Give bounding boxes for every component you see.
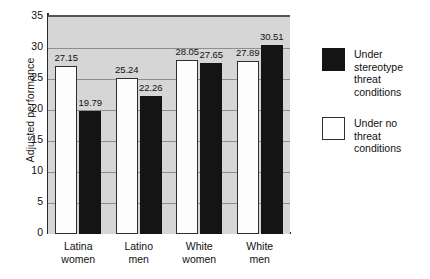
bar (176, 60, 198, 234)
legend-label-line: threat conditions (354, 73, 430, 98)
bar-value-label: 30.51 (260, 31, 283, 42)
x-axis-category-label-line: women (61, 253, 95, 266)
x-axis-category-label-line: Latina (61, 240, 95, 253)
x-axis-category-label-line: men (246, 253, 273, 266)
y-axis-tick-labels: 05101520253035 (19, 0, 43, 279)
bar (200, 63, 222, 234)
bar-chart-figure: Adjusted performance 05101520253035 Lati… (0, 0, 430, 279)
legend-item: Under stereotypethreat conditions (322, 48, 430, 98)
bar (116, 78, 138, 234)
x-axis-category-label: Latinawomen (61, 240, 95, 266)
x-axis-category-label-line: women (182, 253, 216, 266)
x-axis-category-label: Whitemen (246, 240, 273, 266)
legend-swatch (322, 48, 345, 71)
y-axis-tick-label: 10 (21, 164, 43, 176)
legend-label-line: Under no (354, 117, 430, 130)
y-axis-tick-label: 20 (21, 102, 43, 114)
legend-swatch (322, 117, 345, 140)
x-axis-category-label-line: Latino (124, 240, 153, 253)
legend-label-line: threat conditions (354, 130, 430, 155)
bar-value-label: 22.26 (139, 82, 162, 93)
bar (55, 66, 77, 234)
bar-value-label: 27.89 (236, 47, 259, 58)
x-axis-category-label-line: White (246, 240, 273, 253)
y-axis-tick-label: 0 (21, 226, 43, 238)
legend-label: Under stereotypethreat conditions (354, 48, 430, 98)
x-axis-category-label: Whitewomen (182, 240, 216, 266)
bar (140, 96, 162, 234)
legend-item: Under nothreat conditions (322, 117, 430, 155)
bar-value-label: 25.24 (115, 64, 138, 75)
y-axis-tick-label: 30 (21, 40, 43, 52)
y-axis-tick-label: 35 (21, 9, 43, 21)
legend-label-line: Under stereotype (354, 48, 430, 73)
bar-value-label: 28.05 (176, 46, 199, 57)
chart-legend: Under stereotypethreat conditionsUnder n… (322, 48, 430, 174)
y-axis-tick-label: 25 (21, 71, 43, 83)
bar-value-label: 19.79 (79, 97, 102, 108)
bar-value-label: 27.65 (200, 49, 223, 60)
bar (237, 61, 259, 234)
x-axis-category-label: Latinomen (124, 240, 153, 266)
bar (261, 45, 283, 234)
legend-label: Under nothreat conditions (354, 117, 430, 155)
bar-value-label: 27.15 (55, 52, 78, 63)
x-axis-category-label-line: White (182, 240, 216, 253)
x-axis-category-label-line: men (124, 253, 153, 266)
y-axis-tick-label: 15 (21, 133, 43, 145)
bar (79, 111, 101, 234)
y-axis-tick-label: 5 (21, 195, 43, 207)
